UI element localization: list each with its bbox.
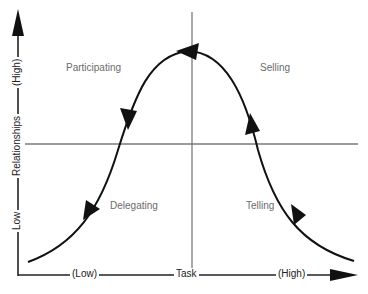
quadrant-label-participating: Participating	[66, 62, 121, 73]
y-axis-high-label: (High)	[11, 57, 22, 88]
arrow-selling-up-icon	[245, 113, 260, 135]
x-axis-high-label: (High)	[276, 268, 307, 279]
y-axis-arrow-icon	[12, 9, 24, 36]
quadrant-label-selling: Selling	[260, 62, 290, 73]
arrow-top-left-icon	[176, 43, 199, 60]
diagram-graphics	[0, 0, 368, 294]
leadership-diagram: Participating Selling Delegating Telling…	[0, 0, 368, 294]
leadership-curve	[28, 51, 354, 262]
quadrant-label-delegating: Delegating	[110, 200, 158, 211]
x-axis-low-label: (Low)	[70, 268, 99, 279]
quadrant-label-telling: Telling	[246, 200, 274, 211]
x-axis-arrow-icon	[330, 269, 358, 281]
y-axis-title: Relationships	[11, 114, 22, 178]
x-axis-title: Task	[174, 268, 199, 279]
arrow-participating-down-icon	[120, 108, 137, 130]
y-axis-low-label: Low	[11, 210, 22, 232]
